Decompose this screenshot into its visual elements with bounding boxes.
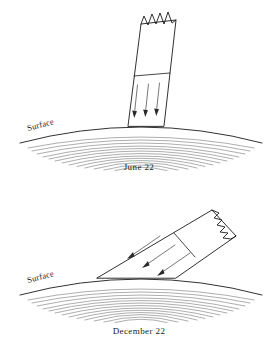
subsurface-hatching-winter (28, 289, 254, 323)
surface-arc-summer (20, 127, 262, 143)
caption-summer: June 22 (124, 162, 155, 172)
surface-label-summer: Surface (26, 116, 55, 133)
panel-winter-solstice: Surface December 22 (20, 210, 262, 336)
panel-summer-solstice: Surface June 22 (20, 12, 262, 172)
caption-winter: December 22 (113, 326, 166, 336)
surface-label-winter: Surface (26, 268, 55, 285)
sunbeam-winter (97, 210, 236, 278)
surface-arc-winter (20, 279, 262, 295)
solstice-insolation-diagram: Surface June 22 (0, 0, 279, 348)
